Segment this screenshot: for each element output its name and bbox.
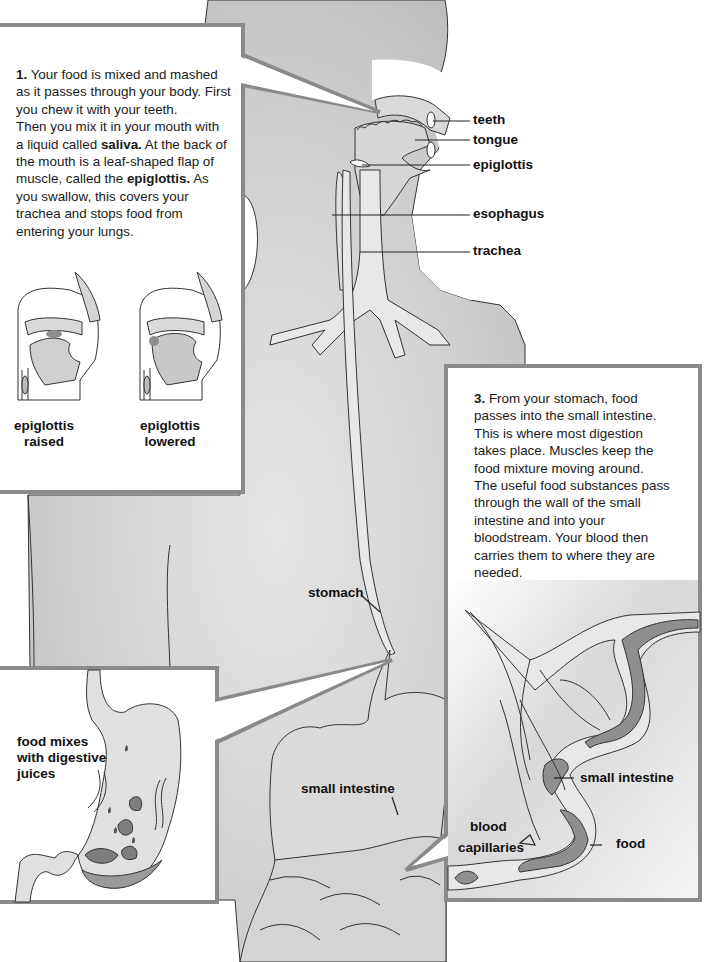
box1-paragraph: 1. Your food is mixed and mashed as it p… [16,66,241,240]
box3-paragraph: 3. From your stomach, food passes into t… [474,390,696,581]
label-teeth: teeth [473,112,505,128]
label-small-intestine-box3: small intestine [580,770,674,786]
caption-epiglottis-raised: epiglottis raised [10,418,78,450]
label-esophagus: esophagus [473,206,544,222]
term-saliva: saliva. [101,137,142,152]
label-blood-capillaries: blood capillaries [458,816,524,858]
box1-step-number: 1. [16,67,27,82]
label-small-intestine-body: small intestine [301,781,395,797]
box3-step-number: 3. [474,391,485,406]
label-trachea: trachea [473,243,521,259]
label-epiglottis: epiglottis [473,157,533,173]
label-tongue: tongue [473,132,518,148]
label-stomach: stomach [308,585,364,601]
box2-caption: food mixes with digestive juices [17,734,106,782]
caption-epiglottis-lowered: epiglottis lowered [132,418,208,450]
term-epiglottis: epiglottis. [127,171,190,186]
label-food: food [616,836,645,852]
